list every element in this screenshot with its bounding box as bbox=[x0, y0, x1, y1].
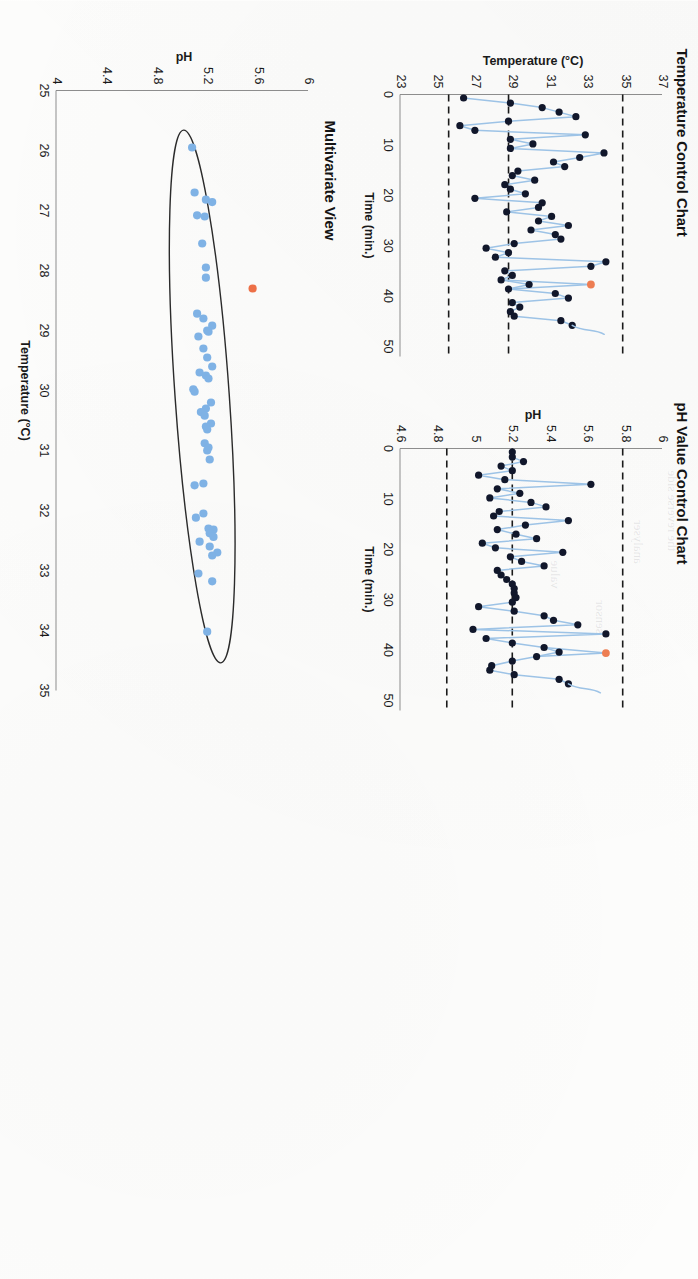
data-point bbox=[529, 140, 536, 147]
data-point bbox=[486, 494, 493, 501]
scatter-point bbox=[208, 362, 216, 370]
ph-x-tick: 10 bbox=[381, 476, 395, 520]
scatter-point bbox=[202, 273, 210, 281]
ph-x-tick: 20 bbox=[381, 527, 395, 571]
scatter-point bbox=[202, 263, 210, 271]
data-point bbox=[541, 562, 548, 569]
data-point bbox=[587, 262, 594, 269]
multivariate-chart-title: Multivariate View bbox=[322, 120, 339, 728]
scatter-point bbox=[206, 455, 214, 463]
data-point bbox=[498, 462, 505, 469]
temperature-control-chart-panel: Temperature Control Chart Temperature (°… bbox=[345, 38, 690, 368]
multivariate-y-tick: 5.6 bbox=[252, 38, 266, 84]
multivariate-view-panel: Multivariate View pH Temperature (°C) 44… bbox=[6, 38, 338, 728]
data-point bbox=[471, 126, 478, 133]
multivariate-y-axis-label: pH bbox=[58, 49, 310, 63]
temperature-y-tick: 27 bbox=[469, 38, 483, 88]
data-point bbox=[557, 317, 564, 324]
data-point bbox=[494, 526, 501, 533]
scatter-point bbox=[203, 353, 211, 361]
multivariate-y-tick: 4.4 bbox=[100, 38, 114, 84]
temperature-y-tick: 23 bbox=[394, 38, 408, 88]
scatter-point bbox=[193, 309, 201, 317]
data-point bbox=[492, 544, 499, 551]
data-point bbox=[527, 226, 534, 233]
temperature-plot-area: Temperature (°C) Time (min.) 23252729313… bbox=[345, 38, 668, 368]
multivariate-plot-area: pH Temperature (°C) 44.44.85.25.66252627… bbox=[6, 38, 314, 728]
data-point bbox=[469, 625, 476, 632]
scatter-point bbox=[199, 344, 207, 352]
multivariate-plot-svg bbox=[6, 38, 314, 728]
data-point bbox=[602, 258, 609, 265]
data-point bbox=[501, 476, 508, 483]
multivariate-x-tick: 34 bbox=[37, 608, 51, 652]
scatter-point bbox=[201, 212, 209, 220]
data-point bbox=[471, 194, 478, 201]
temperature-x-tick: 0 bbox=[381, 72, 395, 116]
scatter-point bbox=[188, 143, 196, 151]
multivariate-x-axis-label: Temperature (°C) bbox=[18, 90, 32, 690]
scatter-point bbox=[196, 537, 204, 545]
temperature-y-tick: 31 bbox=[544, 38, 558, 88]
data-point bbox=[541, 643, 548, 650]
data-point bbox=[522, 521, 529, 528]
multivariate-y-tick: 4.8 bbox=[151, 38, 165, 84]
temperature-y-tick: 35 bbox=[619, 38, 633, 88]
ph-y-tick: 4.8 bbox=[431, 392, 445, 442]
multivariate-x-tick: 32 bbox=[37, 488, 51, 532]
data-point bbox=[522, 190, 529, 197]
data-point bbox=[587, 480, 594, 487]
scatter-point bbox=[199, 479, 207, 487]
data-point bbox=[516, 489, 523, 496]
data-point bbox=[483, 244, 490, 251]
data-point bbox=[516, 303, 523, 310]
data-point bbox=[533, 535, 540, 542]
data-point bbox=[565, 517, 572, 524]
data-point bbox=[498, 276, 505, 283]
scanned-page: the reverse side analyser sensor value T… bbox=[0, 0, 698, 1279]
data-point bbox=[492, 253, 499, 260]
scatter-point bbox=[192, 513, 200, 521]
temperature-y-tick: 37 bbox=[656, 38, 670, 88]
temperature-x-tick: 10 bbox=[381, 122, 395, 166]
ph-y-tick: 5 bbox=[469, 392, 483, 442]
data-point bbox=[582, 131, 589, 138]
data-point bbox=[518, 557, 525, 564]
ph-x-tick: 0 bbox=[381, 426, 395, 470]
data-point bbox=[600, 149, 607, 156]
scatter-point bbox=[191, 481, 199, 489]
temperature-x-tick: 50 bbox=[381, 324, 395, 368]
temperature-x-axis-label: Time (min.) bbox=[362, 94, 376, 356]
data-point bbox=[509, 271, 516, 278]
data-point bbox=[565, 294, 572, 301]
scatter-point bbox=[191, 188, 199, 196]
data-point bbox=[565, 221, 572, 228]
scatter-point bbox=[199, 509, 207, 517]
ph-y-tick: 5.8 bbox=[619, 392, 633, 442]
data-point bbox=[548, 212, 555, 219]
data-point bbox=[496, 507, 503, 514]
multivariate-y-tick: 5.2 bbox=[201, 38, 215, 84]
multivariate-x-tick: 28 bbox=[37, 248, 51, 292]
data-point bbox=[509, 467, 516, 474]
data-point bbox=[602, 630, 609, 637]
data-point bbox=[509, 639, 516, 646]
multivariate-y-tick: 6 bbox=[302, 38, 316, 84]
data-point bbox=[475, 603, 482, 610]
temperature-y-tick: 29 bbox=[506, 38, 520, 88]
multivariate-x-tick: 31 bbox=[37, 428, 51, 472]
multivariate-x-tick: 33 bbox=[37, 548, 51, 592]
ph-y-tick: 5.4 bbox=[544, 392, 558, 442]
data-point bbox=[574, 621, 581, 628]
data-point bbox=[572, 113, 579, 120]
multivariate-x-tick: 29 bbox=[37, 308, 51, 352]
temperature-y-tick: 25 bbox=[431, 38, 445, 88]
data-point bbox=[552, 289, 559, 296]
data-point bbox=[509, 299, 516, 306]
data-point bbox=[550, 616, 557, 623]
multivariate-x-tick: 35 bbox=[37, 668, 51, 712]
temperature-x-tick: 20 bbox=[381, 173, 395, 217]
scatter-point bbox=[206, 542, 214, 550]
ph-x-tick: 40 bbox=[381, 628, 395, 672]
scatter-point bbox=[194, 569, 202, 577]
